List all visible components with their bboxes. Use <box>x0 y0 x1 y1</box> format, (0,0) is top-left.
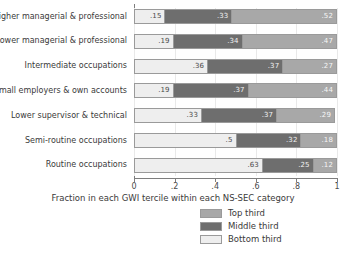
bar-segment: .47 <box>242 34 337 49</box>
bar-segment: .19 <box>134 34 173 49</box>
bar-segment: .37 <box>173 83 248 98</box>
bar-segment-value: .44 <box>322 87 336 94</box>
bar-row: .33.37.29 <box>134 108 337 123</box>
bar-segment: .32 <box>236 133 301 148</box>
bar-segment-value: .33 <box>217 13 231 20</box>
x-axis-line <box>134 178 338 179</box>
bar-segment: .63 <box>134 158 262 173</box>
bar-segment: .12 <box>313 158 337 173</box>
y-axis-category-label: Routine occupations <box>0 158 131 173</box>
x-axis-tick-label: .2 <box>171 183 179 191</box>
bar-rows: .15.33.52.19.34.47.36.37.27.19.37.44.33.… <box>134 8 337 176</box>
bar-segment: .19 <box>134 83 173 98</box>
bar-segment: .37 <box>207 59 282 74</box>
bar-segment-value: .52 <box>322 13 336 20</box>
legend-label: Bottom third <box>228 235 282 244</box>
bar-segment-value: .19 <box>158 87 172 94</box>
x-axis-tick-label: .8 <box>293 183 301 191</box>
bar-segment: .52 <box>231 9 337 24</box>
bar-segment-value: .34 <box>227 38 241 45</box>
bar-segment: .44 <box>248 83 337 98</box>
plot-area: .15.33.52.19.34.47.36.37.27.19.37.44.33.… <box>134 8 337 176</box>
y-axis-category-labels: Higher managerial & professionalLower ma… <box>0 8 131 176</box>
y-axis-category-label: Lower supervisor & technical <box>0 108 131 123</box>
bar-segment-value: .47 <box>322 38 336 45</box>
x-axis-tick-label: 1 <box>334 183 339 191</box>
legend: Top thirdMiddle thirdBottom third <box>200 207 282 246</box>
bar-segment-value: .18 <box>322 137 336 144</box>
legend-item: Top third <box>200 207 282 219</box>
bar-segment-value: .25 <box>298 162 312 169</box>
bar-segment-value: .27 <box>322 63 336 70</box>
bar-segment-value: .5 <box>226 137 236 144</box>
bar-segment-value: .33 <box>187 112 201 119</box>
gridline <box>337 8 338 176</box>
bar-row: .5.32.18 <box>134 133 337 148</box>
x-axis-tick-label: .6 <box>252 183 260 191</box>
bar-row: .63.25.12 <box>134 158 337 173</box>
bar-segment: .18 <box>300 133 337 148</box>
bar-segment-value: .37 <box>262 112 276 119</box>
bar-row: .19.34.47 <box>134 34 337 49</box>
bar-row: .19.37.44 <box>134 83 337 98</box>
bar-segment-value: .32 <box>286 137 300 144</box>
x-axis-tick-label: 0 <box>131 183 136 191</box>
legend-label: Top third <box>228 209 265 218</box>
bar-segment: .33 <box>164 9 231 24</box>
y-axis-category-label: Small employers & own accounts <box>0 83 131 98</box>
bar-segment: .15 <box>134 9 164 24</box>
bar-segment-value: .37 <box>233 87 247 94</box>
bar-segment: .33 <box>134 108 201 123</box>
y-axis-category-label: Higher managerial & professional <box>0 9 131 24</box>
bar-segment: .29 <box>276 108 335 123</box>
bar-segment-value: .19 <box>158 38 172 45</box>
legend-item: Middle third <box>200 220 282 232</box>
bar-segment: .34 <box>173 34 242 49</box>
legend-label: Middle third <box>228 222 279 231</box>
bar-segment: .27 <box>282 59 337 74</box>
y-axis-category-label: Semi-routine occupations <box>0 133 131 148</box>
bar-segment: .25 <box>262 158 313 173</box>
bar-segment: .5 <box>134 133 236 148</box>
bar-row: .36.37.27 <box>134 59 337 74</box>
bar-row: .15.33.52 <box>134 9 337 24</box>
bar-segment-value: .12 <box>322 162 336 169</box>
y-axis-category-label: Intermediate occupations <box>0 59 131 74</box>
legend-swatch <box>200 235 222 244</box>
legend-item: Bottom third <box>200 233 282 245</box>
legend-swatch <box>200 222 222 231</box>
bar-segment-value: .37 <box>268 63 282 70</box>
x-axis-title: Fraction in each GWI tercile within each… <box>0 194 346 203</box>
bar-segment-value: .63 <box>247 162 261 169</box>
bar-segment: .36 <box>134 59 207 74</box>
bar-segment-value: .15 <box>150 13 164 20</box>
stacked-bar-chart: Higher managerial & professionalLower ma… <box>0 0 346 256</box>
legend-swatch <box>200 209 222 218</box>
bar-segment-value: .36 <box>193 63 207 70</box>
y-axis-category-label: Lower managerial & professional <box>0 34 131 49</box>
bar-segment: .37 <box>201 108 276 123</box>
bar-segment-value: .29 <box>320 112 334 119</box>
x-axis-tick-label: .4 <box>211 183 219 191</box>
